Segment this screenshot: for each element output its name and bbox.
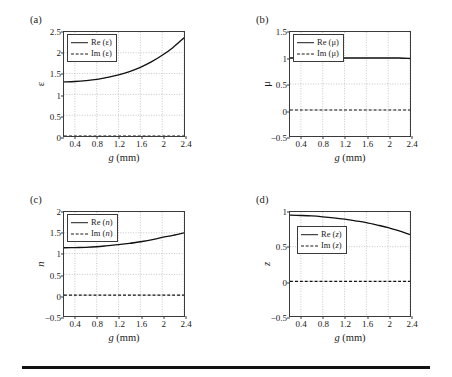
y-tick-label: 1.5	[50, 69, 61, 79]
x-tick-label: 2.4	[180, 139, 191, 149]
y-tick-mark	[287, 212, 290, 213]
y-tick-label: 1.5	[276, 27, 287, 37]
panel-a-legend: Re (ε)Im (ε)	[67, 34, 117, 62]
legend-entry: Re (μ)	[297, 37, 339, 48]
x-tick-mark	[323, 316, 324, 319]
y-tick-mark	[287, 247, 290, 248]
legend-label: Im (ε)	[91, 48, 112, 59]
y-tick-mark	[61, 233, 64, 234]
y-tick-label: 0.5	[276, 80, 287, 90]
legend-label: Re (n)	[91, 217, 113, 228]
panel-d-xlabel-unit: (mm)	[342, 332, 365, 343]
x-tick-label: 0.8	[92, 319, 103, 329]
panel-a-tag: (a)	[30, 14, 42, 25]
x-tick-mark	[412, 136, 413, 139]
panel-b-plot-area: Re (μ)Im (μ) 1.510.50−0.5 0.40.81.21.622…	[289, 31, 411, 137]
y-tick-mark	[287, 111, 290, 112]
y-tick-mark	[61, 275, 64, 276]
legend-label: Re (μ)	[317, 37, 339, 48]
y-tick-label: −0.5	[271, 313, 287, 323]
x-tick-mark	[186, 136, 187, 139]
x-tick-mark	[345, 136, 346, 139]
panel-a-xlabel-unit: (mm)	[116, 152, 139, 163]
x-tick-mark	[75, 136, 76, 139]
x-tick-mark	[301, 316, 302, 319]
x-tick-label: 2.4	[406, 139, 417, 149]
y-tick-mark	[61, 116, 64, 117]
legend-entry: Re (ε)	[71, 37, 112, 48]
x-tick-label: 2.4	[180, 319, 191, 329]
y-tick-label: 1.5	[50, 228, 61, 238]
panel-a-xlabel: g (mm)	[108, 152, 139, 163]
x-tick-mark	[345, 316, 346, 319]
panel-b-tag: (b)	[256, 14, 269, 25]
figure-container: (a) ε g (mm) Re (ε)Im (ε) 2.521.510.50 0…	[0, 0, 452, 377]
legend-line-swatch-dashed	[71, 50, 88, 58]
y-tick-label: 0.5	[50, 112, 61, 122]
x-tick-mark	[323, 136, 324, 139]
x-tick-label: 0.4	[69, 139, 80, 149]
panel-c-xlabel-unit: (mm)	[116, 332, 139, 343]
legend-line-swatch-solid	[71, 219, 88, 227]
x-tick-mark	[367, 136, 368, 139]
panel-b-xlabel-var: g	[334, 152, 339, 163]
panel-d-tag: (d)	[256, 194, 269, 205]
panel-c-ylabel: n	[35, 261, 46, 266]
x-tick-mark	[119, 316, 120, 319]
panel-c-tag: (c)	[30, 194, 42, 205]
legend-label: Im (n)	[91, 228, 113, 239]
legend-line-swatch-dashed	[301, 242, 318, 250]
y-tick-mark	[61, 95, 64, 96]
y-tick-mark	[61, 138, 64, 139]
x-tick-label: 2	[162, 139, 167, 149]
legend-entry: Im (z)	[301, 240, 342, 251]
panel-a-plot-area: Re (ε)Im (ε) 2.521.510.50 0.40.81.21.622…	[63, 31, 185, 137]
y-tick-mark	[287, 282, 290, 283]
legend-line-swatch-dashed	[71, 230, 88, 238]
y-tick-mark	[61, 296, 64, 297]
y-tick-mark	[61, 254, 64, 255]
x-tick-label: 0.4	[295, 139, 306, 149]
x-tick-mark	[163, 136, 164, 139]
y-tick-mark	[61, 53, 64, 54]
x-tick-mark	[141, 316, 142, 319]
legend-label: Im (z)	[321, 240, 342, 251]
legend-line-swatch-solid	[297, 39, 314, 47]
y-tick-label: 0.5	[276, 242, 287, 252]
y-tick-mark	[287, 85, 290, 86]
x-tick-label: 1.6	[362, 139, 373, 149]
y-tick-label: 2.5	[50, 27, 61, 37]
panel-b-xlabel: g (mm)	[334, 152, 365, 163]
panel-b-ylabel: μ	[261, 81, 272, 87]
panel-d-xlabel-var: g	[334, 332, 339, 343]
legend-entry: Re (n)	[71, 217, 113, 228]
x-tick-mark	[141, 136, 142, 139]
panel-a: (a) ε g (mm) Re (ε)Im (ε) 2.521.510.50 0…	[0, 0, 226, 180]
legend-label: Im (μ)	[317, 48, 339, 59]
panel-d-plot-area: Re (z)Im (z) 10.50−0.5 0.40.81.21.622.4	[289, 211, 411, 317]
panel-b-legend: Re (μ)Im (μ)	[293, 34, 344, 62]
x-tick-mark	[97, 316, 98, 319]
x-tick-label: 2.4	[406, 319, 417, 329]
legend-entry: Im (μ)	[297, 48, 339, 59]
x-tick-label: 0.4	[295, 319, 306, 329]
y-tick-label: −0.5	[271, 133, 287, 143]
x-tick-mark	[75, 316, 76, 319]
x-tick-mark	[163, 316, 164, 319]
x-tick-label: 1.2	[114, 319, 125, 329]
x-tick-mark	[119, 136, 120, 139]
panel-a-ylabel: ε	[35, 82, 46, 86]
panel-c-plot-area: Re (n)Im (n) 21.510.50−0.5 0.40.81.21.62…	[63, 211, 185, 317]
y-tick-mark	[61, 318, 64, 319]
legend-entry: Re (z)	[301, 229, 342, 240]
x-tick-label: 2	[162, 319, 167, 329]
x-tick-label: 0.8	[92, 139, 103, 149]
panel-b-xlabel-unit: (mm)	[342, 152, 365, 163]
y-tick-mark	[287, 58, 290, 59]
legend-entry: Im (ε)	[71, 48, 112, 59]
legend-label: Re (ε)	[91, 37, 112, 48]
legend-line-swatch-solid	[71, 39, 88, 47]
y-tick-mark	[61, 74, 64, 75]
y-tick-label: −0.5	[45, 313, 61, 323]
x-tick-label: 1.6	[362, 319, 373, 329]
